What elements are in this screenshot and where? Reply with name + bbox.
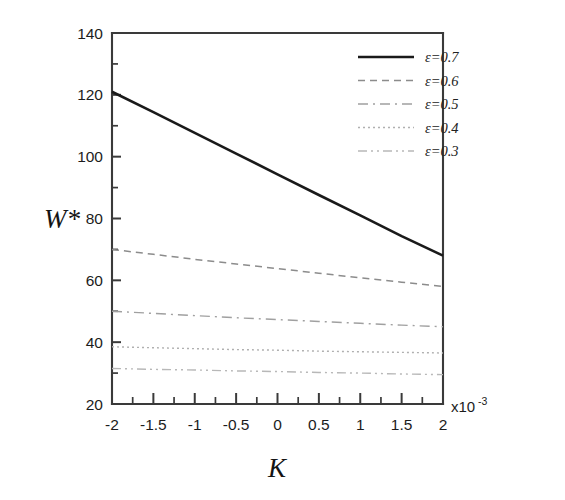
y-tick-label: 120 bbox=[77, 86, 103, 103]
x-tick-label: 0 bbox=[273, 416, 282, 433]
x-tick-label: -0.5 bbox=[223, 416, 250, 433]
x-tick-label: -2 bbox=[105, 416, 119, 433]
legend-label-0: ε=0.7 bbox=[425, 49, 459, 65]
line-chart-figure: 20406080100120140 -2-1.5-1-0.500.511.52 … bbox=[0, 0, 565, 500]
y-tick-label: 140 bbox=[77, 25, 103, 42]
chart-page: 20406080100120140 -2-1.5-1-0.500.511.52 … bbox=[0, 0, 565, 500]
legend-label-1: ε=0.6 bbox=[425, 73, 459, 89]
x-tick-label: -1.5 bbox=[140, 416, 167, 433]
x-tick-label: 1.5 bbox=[391, 416, 413, 433]
x-tick-label: 1 bbox=[356, 416, 365, 433]
y-tick-label: 100 bbox=[77, 148, 103, 165]
y-tick-label: 80 bbox=[86, 210, 104, 227]
legend-label-4: ε=0.3 bbox=[425, 143, 459, 159]
x-tick-label: 0.5 bbox=[308, 416, 330, 433]
x-tick-label: 2 bbox=[439, 416, 448, 433]
y-tick-label: 20 bbox=[86, 396, 104, 413]
legend-label-3: ε=0.4 bbox=[425, 120, 459, 136]
figure-background bbox=[0, 0, 565, 500]
y-tick-label: 40 bbox=[86, 334, 104, 351]
x-axis-multiplier-exponent: -3 bbox=[478, 395, 487, 407]
x-tick-label: -1 bbox=[188, 416, 202, 433]
x-axis-title: K bbox=[267, 453, 288, 483]
y-axis-title: W* bbox=[44, 204, 80, 234]
y-tick-label: 60 bbox=[86, 272, 104, 289]
x-axis-tick-labels: -2-1.5-1-0.500.511.52 bbox=[105, 416, 447, 433]
x-axis-multiplier: x10 bbox=[451, 398, 475, 415]
legend-label-2: ε=0.5 bbox=[425, 96, 459, 112]
